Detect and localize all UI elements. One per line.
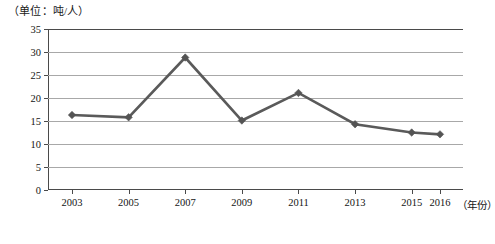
plot-area: 05101520253035 2003200520072009201120132… bbox=[48, 29, 463, 190]
y-tick-label-20: 20 bbox=[31, 93, 42, 104]
x-tick-label-2007: 2007 bbox=[175, 197, 196, 208]
x-tick-label-2009: 2009 bbox=[231, 197, 252, 208]
x-tick-mark-2011 bbox=[298, 190, 299, 194]
x-tick-label-2005: 2005 bbox=[118, 197, 139, 208]
x-tick-label-2011: 2011 bbox=[288, 197, 309, 208]
series-line bbox=[72, 58, 440, 135]
x-tick-mark-2003 bbox=[72, 190, 73, 194]
x-tick-mark-2016 bbox=[440, 190, 441, 194]
x-tick-mark-2009 bbox=[242, 190, 243, 194]
x-tick-label-2016: 2016 bbox=[430, 197, 451, 208]
x-tick-label-2003: 2003 bbox=[62, 197, 83, 208]
x-tick-mark-2005 bbox=[129, 190, 130, 194]
x-tick-label-2015: 2015 bbox=[401, 197, 422, 208]
x-tick-mark-2007 bbox=[185, 190, 186, 194]
data-point-2016 bbox=[436, 131, 443, 138]
unit-caption: （单位：吨/人） bbox=[8, 2, 90, 18]
y-tick-label-15: 15 bbox=[31, 116, 42, 127]
y-tick-label-0: 0 bbox=[36, 185, 41, 196]
y-tick-label-30: 30 bbox=[31, 47, 42, 58]
x-tick-mark-2013 bbox=[355, 190, 356, 194]
x-axis-title: （年份） bbox=[457, 197, 495, 212]
data-series bbox=[48, 29, 463, 190]
data-point-2003 bbox=[68, 111, 75, 118]
y-tick-mark-0 bbox=[44, 190, 48, 191]
x-tick-mark-2015 bbox=[412, 190, 413, 194]
y-tick-label-25: 25 bbox=[31, 70, 42, 81]
y-tick-label-35: 35 bbox=[31, 24, 42, 35]
y-tick-label-10: 10 bbox=[31, 139, 42, 150]
x-tick-label-2013: 2013 bbox=[345, 197, 366, 208]
data-point-2015 bbox=[408, 129, 415, 136]
y-tick-label-5: 5 bbox=[36, 162, 41, 173]
